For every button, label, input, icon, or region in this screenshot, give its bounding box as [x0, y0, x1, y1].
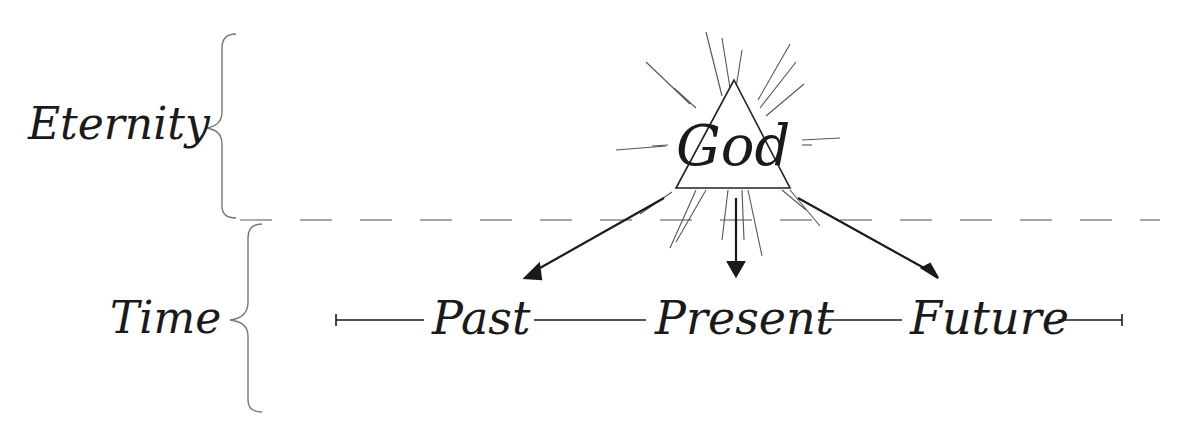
future-label: Future — [910, 295, 1069, 341]
diagram-graphics — [0, 0, 1184, 436]
eternity-brace — [206, 34, 236, 218]
present-label: Present — [655, 295, 834, 341]
god-label: God — [676, 118, 790, 174]
past-label: Past — [432, 295, 530, 341]
arrows — [525, 198, 938, 279]
eternity-time-diagram: Eternity Time God Past Present Future — [0, 0, 1184, 436]
time-label: Time — [110, 296, 221, 340]
eternity-label: Eternity — [28, 102, 210, 146]
time-brace — [230, 224, 262, 412]
